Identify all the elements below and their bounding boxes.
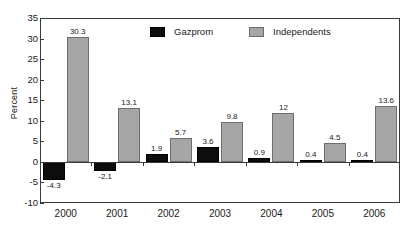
y-tick-label: 20 xyxy=(0,74,38,85)
bar-independents-2000 xyxy=(67,37,89,162)
y-tick-mark xyxy=(40,80,44,81)
bar-gazprom-2000 xyxy=(43,162,65,180)
bar-gazprom-2001 xyxy=(94,162,116,171)
y-tick-mark xyxy=(40,121,44,122)
bar-value-label: 13.6 xyxy=(366,96,406,105)
bar-value-label: 4.5 xyxy=(315,133,355,142)
y-tick-label: 35 xyxy=(0,12,38,23)
bar-value-label: -4.3 xyxy=(34,181,74,190)
bar-value-label: -2.1 xyxy=(85,172,125,181)
legend-swatch-independents xyxy=(249,27,264,37)
bar-independents-2006 xyxy=(375,106,397,162)
bar-gazprom-2003 xyxy=(197,147,219,162)
legend-label-independents: Independents xyxy=(273,26,331,37)
y-tick-label: 10 xyxy=(0,115,38,126)
y-tick-label: -10 xyxy=(0,197,38,208)
y-tick-label: 25 xyxy=(0,53,38,64)
zero-baseline xyxy=(40,162,400,163)
bar-independents-2001 xyxy=(118,108,140,162)
y-tick-mark xyxy=(40,141,44,142)
y-tick-mark xyxy=(40,100,44,101)
legend-entry-independents: Independents xyxy=(249,26,331,37)
legend-label-gazprom: Gazprom xyxy=(174,26,213,37)
y-tick-label: 15 xyxy=(0,94,38,105)
legend-entry-gazprom: Gazprom xyxy=(150,26,213,37)
chart-legend: Gazprom Independents xyxy=(150,26,331,37)
bar-value-label: 13.1 xyxy=(109,98,149,107)
bar-gazprom-2002 xyxy=(146,154,168,162)
bar-value-label: 12 xyxy=(263,103,303,112)
x-tick-label: 2001 xyxy=(91,208,143,219)
x-tick-label: 2005 xyxy=(297,208,349,219)
y-tick-label: 5 xyxy=(0,135,38,146)
bar-value-label: 30.3 xyxy=(58,27,98,36)
y-tick-mark xyxy=(40,59,44,60)
x-tick-label: 2006 xyxy=(348,208,400,219)
x-tick-label: 2004 xyxy=(245,208,297,219)
y-tick-label: 0 xyxy=(0,156,38,167)
legend-swatch-gazprom xyxy=(150,27,165,37)
x-tick-label: 2002 xyxy=(143,208,195,219)
y-tick-label: -5 xyxy=(0,176,38,187)
y-tick-mark xyxy=(40,18,44,19)
bar-value-label: 9.8 xyxy=(212,112,252,121)
y-tick-label: 30 xyxy=(0,33,38,44)
x-tick-label: 2003 xyxy=(194,208,246,219)
x-tick-label: 2000 xyxy=(40,208,92,219)
bar-chart: Percent 35302520151050-5-10 200020012002… xyxy=(0,0,413,240)
y-tick-mark xyxy=(40,39,44,40)
y-tick-mark xyxy=(40,203,44,204)
